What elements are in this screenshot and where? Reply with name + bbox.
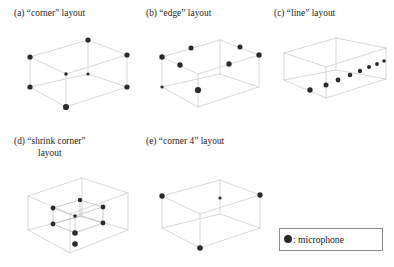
microphone-dot bbox=[159, 54, 164, 59]
microphone-dot bbox=[101, 221, 106, 226]
room-wire-segment bbox=[284, 80, 326, 98]
microphone-dot bbox=[336, 78, 341, 83]
room-wire-segment bbox=[162, 196, 200, 214]
microphone-dot bbox=[382, 59, 386, 63]
room-wire-segment bbox=[82, 178, 128, 193]
microphone-dot bbox=[195, 87, 201, 93]
microphone-dot bbox=[324, 83, 329, 88]
microphone-dot bbox=[78, 198, 82, 202]
panel-caption-line: (c) “line” layout bbox=[274, 8, 335, 20]
room-wire-segment bbox=[75, 223, 103, 233]
microphone-dot bbox=[257, 192, 262, 197]
panel-caption-line: (b) “edge” layout bbox=[146, 8, 211, 20]
room-wire-segment bbox=[326, 79, 386, 98]
microphone-dot bbox=[160, 85, 163, 88]
microphone-dot bbox=[307, 87, 312, 92]
room-wire-segment bbox=[284, 70, 336, 80]
room-wire-segment bbox=[66, 55, 127, 74]
legend-box: : microphone bbox=[279, 228, 383, 251]
microphone-dot bbox=[218, 196, 221, 199]
room-wireframe bbox=[28, 178, 128, 253]
room-wire-segment bbox=[30, 40, 88, 57]
microphone-dot bbox=[27, 54, 32, 59]
microphone-dot bbox=[256, 52, 261, 57]
room-diagram-a bbox=[14, 24, 138, 116]
room-wire-segment bbox=[28, 230, 70, 253]
room-wire-segment bbox=[53, 208, 75, 216]
room-wire-segment bbox=[220, 74, 259, 87]
room-wire-segment bbox=[284, 38, 336, 53]
room-wire-segment bbox=[30, 74, 88, 87]
room-diagram-e bbox=[150, 168, 274, 260]
room-wire-segment bbox=[284, 53, 326, 67]
microphone-marker-icon bbox=[284, 235, 292, 243]
legend-label: : microphone bbox=[293, 234, 344, 245]
room-wire-segment bbox=[336, 38, 386, 48]
room-wire-segment bbox=[88, 74, 127, 87]
room-wire-segment bbox=[198, 87, 259, 107]
room-wire-segment bbox=[162, 87, 198, 107]
room-wire-segment bbox=[88, 40, 127, 55]
microphone-dot bbox=[238, 45, 243, 50]
microphone-dot bbox=[72, 241, 78, 247]
room-wire-segment bbox=[200, 228, 260, 248]
room-wire-segment bbox=[30, 87, 66, 107]
room-diagram-b bbox=[146, 24, 270, 116]
microphone-dot bbox=[367, 65, 371, 69]
room-wire-segment bbox=[162, 74, 220, 87]
room-wire-segment bbox=[28, 178, 82, 196]
room-wire-segment bbox=[162, 180, 220, 196]
panel-caption-a: (a) “corner” layout bbox=[14, 8, 85, 20]
room-wireframe bbox=[53, 200, 103, 233]
room-wireframe bbox=[162, 40, 259, 107]
microphone-dot bbox=[124, 52, 129, 57]
room-diagram-c bbox=[274, 24, 394, 116]
microphone-dot bbox=[197, 245, 203, 251]
microphone-dot bbox=[348, 73, 353, 78]
microphone-dot bbox=[124, 84, 129, 89]
microphone-dot bbox=[189, 46, 194, 51]
microphone-dot bbox=[86, 72, 89, 75]
room-wire-segment bbox=[53, 224, 75, 233]
room-wire-segment bbox=[66, 87, 127, 107]
panel-caption-line: layout bbox=[14, 148, 86, 160]
panel-caption-b: (b) “edge” layout bbox=[146, 8, 211, 20]
microphone-dot bbox=[358, 69, 362, 73]
room-wire-segment bbox=[220, 180, 260, 195]
microphone-dot bbox=[159, 193, 164, 198]
microphone-dot bbox=[226, 61, 231, 66]
panel-caption-c: (c) “line” layout bbox=[274, 8, 335, 20]
room-wireframe bbox=[30, 40, 127, 107]
room-diagram-d bbox=[18, 168, 142, 260]
microphone-dot bbox=[27, 84, 32, 89]
room-wire-segment bbox=[220, 214, 260, 228]
microphone-dot bbox=[73, 214, 77, 218]
room-wire-segment bbox=[53, 200, 80, 208]
room-wire-segment bbox=[30, 57, 66, 74]
microphone-dot bbox=[63, 104, 69, 110]
room-wire-segment bbox=[80, 216, 103, 223]
panel-caption-line: (a) “corner” layout bbox=[14, 8, 85, 20]
panel-caption-e: (e) “corner 4” layout bbox=[146, 136, 224, 148]
microphone-dot bbox=[51, 222, 56, 227]
panel-caption-line: (e) “corner 4” layout bbox=[146, 136, 224, 148]
microphone-dot bbox=[64, 72, 68, 76]
room-wire-segment bbox=[70, 230, 128, 253]
room-wire-segment bbox=[75, 207, 103, 216]
microphone-dot bbox=[72, 230, 78, 236]
microphone-dot bbox=[101, 205, 106, 210]
panel-caption-d: (d) “shrink corner”layout bbox=[14, 136, 86, 159]
room-wireframe bbox=[162, 180, 260, 248]
panel-caption-line: (d) “shrink corner” bbox=[14, 136, 86, 148]
room-wire-segment bbox=[200, 195, 260, 214]
microphone-dot bbox=[177, 62, 182, 67]
microphone-dot bbox=[51, 206, 56, 211]
figure-canvas: (a) “corner” layout(b) “edge” layout(c) … bbox=[0, 0, 394, 267]
microphone-dot bbox=[375, 62, 379, 66]
room-wire-segment bbox=[70, 193, 128, 214]
room-wire-segment bbox=[162, 214, 220, 228]
microphone-dot bbox=[85, 37, 90, 42]
room-wire-segment bbox=[162, 228, 200, 248]
